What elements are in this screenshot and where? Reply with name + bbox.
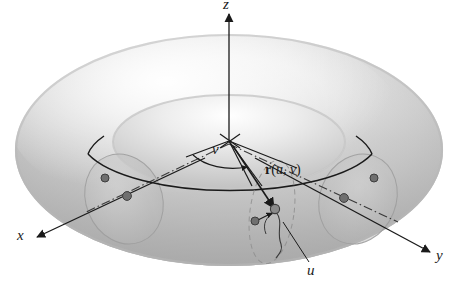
angle-label-v: v [212,142,219,157]
right-circle-dot [370,174,378,182]
axis-label-y: y [436,248,443,263]
vector-label-r-of-u-v: r(u, v) [265,163,301,177]
vector-label-close-paren: ) [296,162,301,177]
left-circle-dot [101,174,109,182]
vector-label-param-u: u [276,162,283,177]
parameter-label-u: u [307,263,315,278]
surface-point [270,204,279,213]
axis-label-z: z [223,0,229,12]
small-dot-near-surface-point [251,217,259,225]
torus-diagram-svg [0,0,458,286]
left-center-dot [123,192,132,201]
right-center-dot [340,194,349,203]
vector-label-comma: , [283,162,290,177]
torus-parametrization-figure: z x y v u r(u, v) [0,0,458,286]
axis-label-x: x [17,228,24,243]
